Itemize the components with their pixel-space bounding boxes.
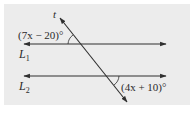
angle1-label: (7x − 20)° [18, 29, 63, 42]
line1-label-sub: 1 [26, 54, 30, 63]
parallel-lines-transversal-diagram: t (7x − 20)° L1 L2 (4x + 10)° [0, 0, 194, 121]
line2-label-sub: 2 [26, 86, 30, 95]
angle2-label: (4x + 10)° [121, 81, 166, 94]
